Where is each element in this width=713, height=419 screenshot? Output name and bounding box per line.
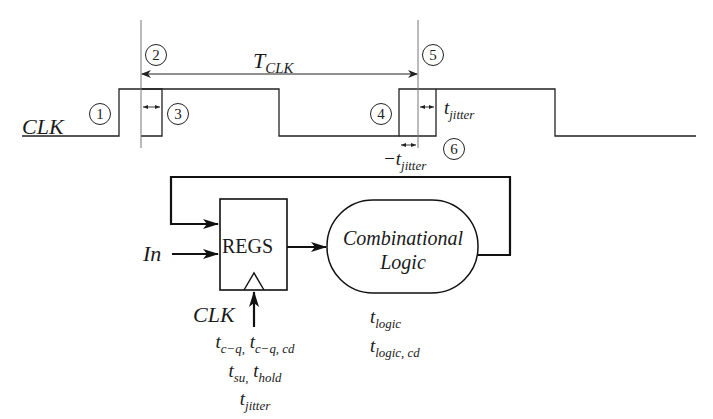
input-label: In bbox=[143, 243, 161, 265]
param-tsu-sub: su, bbox=[234, 369, 249, 384]
logic-label-line2: Logic bbox=[333, 250, 473, 274]
register-params-line2: tsu, thold bbox=[180, 360, 330, 389]
register-timing-params: tc−q, tc−q, cd tsu, thold tjitter bbox=[180, 331, 330, 417]
logic-timing-params: tlogic tlogic, cd bbox=[370, 306, 420, 363]
logic-params-line1: tlogic bbox=[370, 306, 420, 335]
neg-jitter-label-sub: jitter bbox=[401, 158, 426, 173]
register-params-line3: tjitter bbox=[180, 388, 330, 417]
logic-label-line1: Combinational bbox=[333, 226, 473, 250]
jitter-label: tjitter bbox=[444, 98, 474, 121]
register-params-line1: tc−q, tc−q, cd bbox=[180, 331, 330, 360]
logic-params-line2: tlogic, cd bbox=[370, 335, 420, 364]
clock-input-triangle bbox=[244, 273, 264, 290]
param-thold-sub: hold bbox=[259, 369, 282, 384]
period-label-main: T bbox=[253, 48, 265, 73]
period-label-sub: CLK bbox=[265, 60, 293, 76]
clk-signal-label: CLK bbox=[22, 116, 64, 138]
marker-3: 3 bbox=[167, 103, 189, 125]
marker-1: 1 bbox=[89, 103, 111, 125]
period-label: TCLK bbox=[253, 50, 294, 76]
neg-jitter-label-main: −t bbox=[383, 148, 401, 169]
param-tjitter-sub: jitter bbox=[245, 398, 270, 413]
marker-4: 4 bbox=[370, 103, 392, 125]
neg-jitter-label: −tjitter bbox=[383, 149, 426, 172]
diagram-graphics bbox=[0, 0, 713, 419]
marker-5: 5 bbox=[422, 44, 444, 66]
register-clock-label: CLK bbox=[193, 304, 235, 326]
register-label: REGS bbox=[222, 236, 273, 256]
marker-6: 6 bbox=[443, 138, 465, 160]
param-tlogic-sub: logic bbox=[375, 316, 401, 331]
timing-diagram-figure: CLK TCLK 1 2 3 4 5 6 tjitter −tjitter In… bbox=[0, 0, 713, 419]
jitter-label-sub: jitter bbox=[449, 107, 474, 122]
param-tcq-sub: c−q, bbox=[221, 341, 245, 356]
param-tcqcd-sub: c−q, cd bbox=[255, 341, 295, 356]
clk-waveform bbox=[22, 89, 696, 136]
logic-label: Combinational Logic bbox=[333, 226, 473, 274]
param-tlogiccd-sub: logic, cd bbox=[375, 344, 419, 359]
marker-2: 2 bbox=[145, 44, 167, 66]
